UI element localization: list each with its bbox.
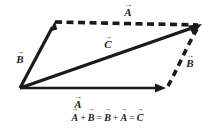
vector-symbol: A (124, 7, 132, 18)
label-vector-b-left: → B (16, 50, 24, 65)
vector-symbol: B (16, 54, 24, 65)
vector-equation: →A+→B=→B+→A=→C (0, 112, 215, 124)
vector-diagram-figure: → A → C → B → B → A →A+→B=→B+→A=→C (0, 0, 215, 134)
vector-symbol: B (186, 58, 194, 69)
vector-symbol: B (88, 112, 95, 123)
equation-operator-equals-1: = (95, 112, 105, 124)
equation-term-b2: →B (104, 112, 111, 124)
vector-arrow-accent: → (104, 107, 111, 112)
label-vector-c: → C (104, 35, 112, 50)
vector-a-solid-bottom (20, 84, 166, 93)
vector-a-dashed-top (55, 22, 198, 25)
equation-term-a2: →A (120, 112, 127, 124)
vector-arrow-accent: → (72, 107, 79, 112)
vector-symbol: A (72, 112, 79, 123)
label-vector-b-right: → B (186, 54, 194, 69)
vector-symbol: A (120, 112, 127, 123)
equation-term-b1: →B (88, 112, 95, 124)
equation-term-a1: →A (72, 112, 79, 124)
vector-arrow-accent: → (120, 107, 127, 112)
equation-operator-equals-2: = (127, 112, 137, 124)
equation-term-c: →C (137, 112, 144, 124)
equation-operator-plus: + (78, 112, 88, 124)
vector-symbol: C (104, 39, 112, 50)
vector-arrow-accent: → (88, 107, 95, 112)
label-vector-a-top: → A (124, 3, 132, 18)
vector-arrow-accent: → (137, 107, 144, 112)
vector-symbol: C (137, 112, 144, 123)
vector-symbol: B (104, 112, 111, 123)
